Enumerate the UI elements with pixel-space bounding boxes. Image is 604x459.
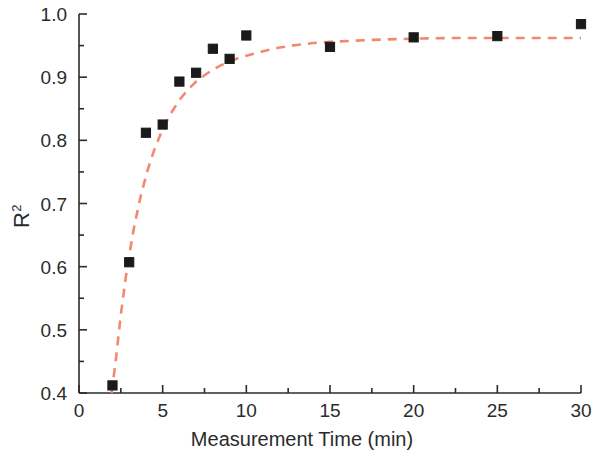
x-tick-label: 10 bbox=[236, 400, 257, 421]
data-point-marker bbox=[325, 42, 334, 51]
data-point-marker bbox=[125, 258, 134, 267]
data-point-marker bbox=[576, 20, 585, 29]
x-tick-label: 0 bbox=[74, 400, 85, 421]
x-tick-label: 20 bbox=[403, 400, 424, 421]
data-point-marker bbox=[493, 32, 502, 41]
data-points bbox=[108, 20, 586, 391]
fit-curve bbox=[112, 38, 581, 393]
data-point-marker bbox=[242, 31, 251, 40]
scatter-plot-svg: 0510152025300.40.50.60.70.80.91.0 bbox=[0, 0, 604, 459]
x-tick-label: 25 bbox=[487, 400, 508, 421]
y-tick-label: 0.9 bbox=[41, 67, 67, 88]
y-tick-label: 0.8 bbox=[41, 130, 67, 151]
x-tick-label: 30 bbox=[570, 400, 591, 421]
data-point-marker bbox=[208, 44, 217, 53]
x-tick-label: 15 bbox=[319, 400, 340, 421]
chart-container: 0510152025300.40.50.60.70.80.91.0 R2 Mea… bbox=[0, 0, 604, 459]
data-point-marker bbox=[141, 128, 150, 137]
y-axis-label: R2 bbox=[2, 196, 42, 236]
y-tick-label: 0.4 bbox=[41, 383, 68, 404]
data-point-marker bbox=[409, 33, 418, 42]
data-point-marker bbox=[158, 120, 167, 129]
y-tick-label: 1.0 bbox=[41, 4, 67, 25]
x-tick-label: 5 bbox=[157, 400, 168, 421]
y-tick-label: 0.5 bbox=[41, 320, 67, 341]
data-point-marker bbox=[108, 381, 117, 390]
data-point-marker bbox=[175, 77, 184, 86]
data-point-marker bbox=[225, 54, 234, 63]
y-tick-label: 0.6 bbox=[41, 257, 67, 278]
y-tick-label: 0.7 bbox=[41, 194, 67, 215]
data-point-marker bbox=[192, 68, 201, 77]
fit-curve-path bbox=[112, 38, 581, 393]
y-axis-label-text: R2 bbox=[9, 204, 35, 228]
axis-tick-labels: 0510152025300.40.50.60.70.80.91.0 bbox=[41, 4, 592, 421]
axes-layer bbox=[79, 14, 581, 393]
x-axis-label: Measurement Time (min) bbox=[0, 428, 604, 451]
